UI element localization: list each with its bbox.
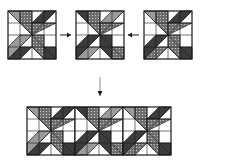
arrow-down-icon bbox=[0, 0, 235, 162]
